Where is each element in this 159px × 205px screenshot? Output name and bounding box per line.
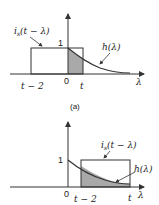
h-label: h(λ) [134,164,153,174]
t-minus-2-label: t − 2 [21,81,44,91]
panel-b: is(t − λ) h(λ) 1 0 t − 2 t λ [10,122,153,204]
t-minus-2-label: t − 2 [74,194,97,204]
shaded-overlap-area [68,48,83,74]
input-label: is(t − λ) [101,140,137,151]
t-label: t [128,193,132,203]
h-label-pointer [116,172,135,182]
h-label: h(λ) [102,42,121,52]
caption-a: (a) [70,102,80,111]
origin-label: 0 [64,189,69,199]
h-label-pointer [100,53,110,64]
lambda-label: λ [135,77,142,87]
panel-a: is(t − λ) h(λ) 1 0 t t − 2 λ (a) [10,14,144,111]
input-label-pointer [104,151,110,158]
input-label-pointer [30,37,42,46]
lambda-label: λ [137,190,144,200]
y-tick-1: 1 [58,38,63,48]
y-tick-1: 1 [58,155,63,165]
convolution-diagram: is(t − λ) h(λ) 1 0 t t − 2 λ (a) is(t − … [0,0,159,205]
t-label: t [80,81,84,91]
origin-label: 0 [64,76,69,86]
input-label: is(t − λ) [14,26,50,37]
